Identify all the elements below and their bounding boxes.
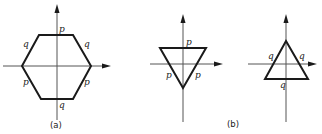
label-up-tri-left: q bbox=[268, 51, 274, 61]
panel-b-left: p p p bbox=[150, 14, 223, 122]
panel-b-left-horizontal-arrow-icon bbox=[214, 62, 223, 67]
caption-a: (a) bbox=[50, 120, 62, 130]
label-hex-lower-right: p bbox=[84, 77, 90, 87]
panel-a-vertical-arrow-icon bbox=[55, 4, 60, 13]
panel-a: p q q p p q (a) bbox=[3, 4, 111, 130]
panel-b-right-vertical-arrow-icon bbox=[284, 14, 289, 23]
caption-b: (b) bbox=[227, 119, 239, 129]
label-inv-tri-left: p bbox=[166, 70, 172, 80]
label-hex-lower-left: p bbox=[23, 77, 29, 87]
diagram-canvas: p q q p p q (a) p p p q q q (b) bbox=[0, 0, 322, 134]
panel-b-right: q q q bbox=[248, 14, 317, 122]
label-inv-tri-top: p bbox=[186, 37, 192, 47]
label-hex-top: p bbox=[59, 24, 65, 34]
panel-b-left-vertical-arrow-icon bbox=[181, 14, 186, 23]
label-hex-upper-left: q bbox=[23, 39, 29, 49]
label-hex-upper-right: q bbox=[84, 39, 90, 49]
panel-a-horizontal-arrow-icon bbox=[102, 64, 111, 69]
label-up-tri-right: q bbox=[299, 51, 305, 61]
label-up-tri-bottom: q bbox=[280, 80, 286, 90]
label-hex-bottom: q bbox=[59, 100, 65, 110]
panel-b-right-horizontal-arrow-icon bbox=[308, 62, 317, 67]
label-inv-tri-right: p bbox=[195, 70, 201, 80]
